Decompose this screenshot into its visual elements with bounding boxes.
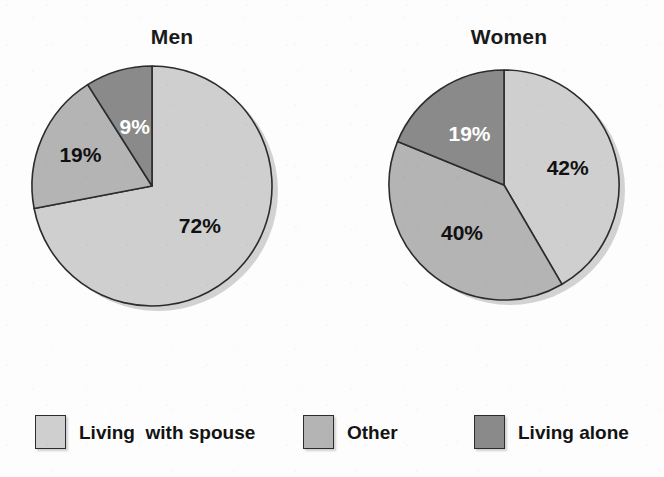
- legend-label-living-alone: Living alone: [518, 423, 629, 442]
- pie-slice-label: 19%: [448, 122, 490, 145]
- pie-slice-label: 19%: [59, 143, 101, 166]
- legend-item-living-with-spouse[interactable]: Living with spouse: [35, 412, 255, 452]
- chart-title-men: Men: [82, 25, 262, 49]
- legend-swatch-other: [303, 415, 334, 449]
- pie-chart-women-svg: 42%40%19%: [380, 58, 640, 318]
- chart-title-women: Women: [419, 25, 599, 49]
- pie-slice-label: 72%: [179, 214, 221, 237]
- legend: Living with spouse Other Living alone: [0, 405, 664, 460]
- pie-chart-men-svg: 72%19%9%: [22, 56, 302, 326]
- legend-item-other[interactable]: Other: [303, 412, 398, 452]
- pie-slice-label: 40%: [441, 221, 483, 244]
- pie-slice-label: 9%: [120, 115, 151, 138]
- legend-swatch-living-alone: [474, 415, 505, 449]
- pie-slice-label: 42%: [547, 156, 589, 179]
- legend-label-living-with-spouse: Living with spouse: [79, 423, 255, 442]
- pie-chart-women: 42%40%19%: [380, 58, 640, 318]
- legend-swatch-living-with-spouse: [35, 415, 66, 449]
- legend-item-living-alone[interactable]: Living alone: [474, 412, 629, 452]
- pie-chart-men: 72%19%9%: [22, 56, 302, 326]
- legend-label-other: Other: [347, 423, 398, 442]
